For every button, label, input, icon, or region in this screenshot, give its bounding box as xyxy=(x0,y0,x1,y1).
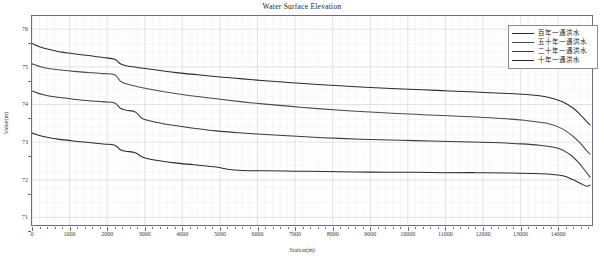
x-tick-mark xyxy=(258,227,259,231)
series-line xyxy=(32,43,590,124)
x-tick-mark xyxy=(543,227,544,229)
x-tick-mark xyxy=(145,227,146,231)
x-tick-mark xyxy=(92,227,93,229)
x-tick-mark xyxy=(152,227,153,229)
x-tick-mark xyxy=(460,227,461,229)
x-axis-ticks: 0100020003000400050006000700080009000100… xyxy=(31,231,593,243)
x-tick-mark xyxy=(288,227,289,229)
x-tick-mark xyxy=(483,227,484,231)
x-tick-mark xyxy=(385,227,386,229)
x-tick-mark xyxy=(423,227,424,229)
x-tick-mark xyxy=(348,227,349,229)
x-tick-mark xyxy=(318,227,319,229)
x-tick-mark xyxy=(205,227,206,229)
x-tick-mark xyxy=(167,227,168,229)
chart-figure: Water Surface Elevation Value(m) Station… xyxy=(0,0,604,265)
x-tick-mark xyxy=(265,227,266,229)
x-tick-mark xyxy=(566,227,567,229)
x-tick-mark xyxy=(536,227,537,229)
x-tick-mark xyxy=(32,227,33,231)
x-tick-mark xyxy=(280,227,281,229)
x-tick-mark xyxy=(340,227,341,229)
x-tick-mark xyxy=(528,227,529,229)
legend-color-swatch xyxy=(512,60,534,61)
x-tick-mark xyxy=(182,227,183,231)
x-tick-mark xyxy=(491,227,492,229)
x-axis-label: Station(m) xyxy=(0,247,604,253)
legend-item-label: 二十年一遇洪水 xyxy=(538,47,587,56)
x-tick-mark xyxy=(370,227,371,231)
x-tick-mark xyxy=(521,227,522,231)
x-tick-mark xyxy=(55,227,56,229)
y-tick-label: 76 xyxy=(4,26,28,32)
x-tick-mark xyxy=(325,227,326,229)
x-tick-mark xyxy=(115,227,116,229)
legend-item[interactable]: 十年一遇洪水 xyxy=(512,56,595,65)
series-line xyxy=(32,133,590,186)
y-tick-label: 71 xyxy=(4,214,28,220)
x-tick-mark xyxy=(588,227,589,229)
x-tick-mark xyxy=(363,227,364,229)
y-tick-label: 74 xyxy=(4,101,28,107)
x-tick-mark xyxy=(130,227,131,229)
x-tick-mark xyxy=(250,227,251,229)
x-tick-mark xyxy=(445,227,446,231)
x-tick-mark xyxy=(393,227,394,229)
x-tick-mark xyxy=(100,227,101,229)
x-tick-mark xyxy=(77,227,78,229)
chart-title: Water Surface Elevation xyxy=(0,2,604,11)
x-tick-mark xyxy=(506,227,507,229)
x-tick-mark xyxy=(40,227,41,229)
x-tick-mark xyxy=(235,227,236,229)
x-tick-mark xyxy=(333,227,334,231)
x-tick-mark xyxy=(85,227,86,229)
x-tick-label: 14000 xyxy=(536,231,580,237)
x-tick-mark xyxy=(415,227,416,229)
x-tick-mark xyxy=(581,227,582,229)
x-tick-mark xyxy=(303,227,304,229)
legend-item-label: 十年一遇洪水 xyxy=(538,56,580,65)
x-tick-mark xyxy=(242,227,243,229)
x-tick-mark xyxy=(137,227,138,229)
series-line xyxy=(32,64,590,154)
y-axis-ticks: 717273747576 xyxy=(0,15,28,226)
x-tick-mark xyxy=(273,227,274,229)
x-tick-mark xyxy=(122,227,123,229)
x-tick-mark xyxy=(551,227,552,229)
legend-item[interactable]: 五十年一遇洪水 xyxy=(512,38,595,47)
x-tick-mark xyxy=(498,227,499,229)
y-tick-label: 73 xyxy=(4,139,28,145)
legend-color-swatch xyxy=(512,51,534,52)
x-tick-mark xyxy=(310,227,311,229)
chart-legend: 百年一遇洪水五十年一遇洪水二十年一遇洪水十年一遇洪水 xyxy=(508,25,598,69)
x-tick-mark xyxy=(430,227,431,229)
legend-item[interactable]: 二十年一遇洪水 xyxy=(512,47,595,56)
x-tick-mark xyxy=(400,227,401,229)
x-tick-mark xyxy=(70,227,71,231)
legend-item-label: 百年一遇洪水 xyxy=(538,29,580,38)
x-tick-mark xyxy=(220,227,221,231)
x-tick-mark xyxy=(378,227,379,229)
x-tick-mark xyxy=(453,227,454,229)
y-tick-label: 75 xyxy=(4,64,28,70)
x-tick-mark xyxy=(408,227,409,231)
x-tick-mark xyxy=(558,227,559,231)
x-tick-mark xyxy=(295,227,296,231)
x-tick-mark xyxy=(47,227,48,229)
legend-item[interactable]: 百年一遇洪水 xyxy=(512,29,595,38)
legend-color-swatch xyxy=(512,33,534,34)
x-tick-mark xyxy=(438,227,439,229)
x-tick-mark xyxy=(573,227,574,229)
x-tick-mark xyxy=(107,227,108,231)
legend-color-swatch xyxy=(512,42,534,43)
y-tick-label: 72 xyxy=(4,177,28,183)
legend-item-label: 五十年一遇洪水 xyxy=(538,38,587,47)
x-tick-mark xyxy=(468,227,469,229)
x-tick-mark xyxy=(355,227,356,229)
x-tick-mark xyxy=(513,227,514,229)
series-line xyxy=(32,91,590,177)
x-tick-mark xyxy=(475,227,476,229)
x-tick-mark xyxy=(227,227,228,229)
x-tick-mark xyxy=(190,227,191,229)
x-tick-mark xyxy=(160,227,161,229)
